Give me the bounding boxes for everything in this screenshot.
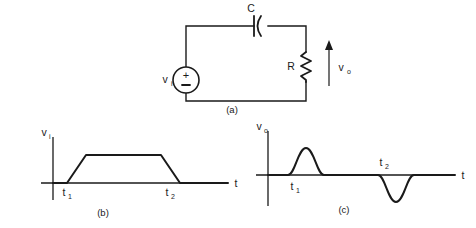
resistor — [301, 52, 311, 82]
tick-label-t1-b: t 1 — [63, 186, 72, 200]
capacitor — [254, 16, 261, 36]
tick-label-t1-c: t 1 — [291, 180, 300, 194]
tick-label-t2-c: t 2 — [380, 156, 389, 170]
output-voltage-label: v o — [338, 61, 351, 75]
resistor-label: R — [287, 60, 295, 72]
svg-text:2: 2 — [171, 193, 175, 200]
svg-text:1: 1 — [68, 193, 72, 200]
capacitor-label: C — [247, 2, 255, 14]
waveform-trace-b — [53, 155, 228, 183]
output-voltage-arrow — [325, 40, 333, 86]
svg-text:i: i — [49, 133, 51, 140]
chart-panel-c: v o t t 1 t 2 (c) — [256, 120, 465, 215]
tick-label-t2-b: t 2 — [166, 186, 175, 200]
svg-text:1: 1 — [296, 187, 300, 194]
axis-label-y-b: v i — [41, 126, 51, 140]
capacitor-plate-curved — [258, 16, 262, 36]
source-label: v i — [162, 73, 173, 87]
svg-text:v: v — [338, 61, 344, 73]
axis-label-x-c: t — [462, 169, 465, 181]
wire-top-left — [186, 26, 254, 72]
svg-text:v: v — [256, 120, 262, 132]
voltage-source: + — [173, 67, 199, 93]
figure-root: C + v i R v o — [0, 0, 476, 228]
wire-top-right — [268, 26, 306, 52]
svg-text:o: o — [347, 68, 351, 75]
panel-a-caption: (a) — [226, 104, 238, 115]
panel-b-caption: (b) — [97, 207, 109, 218]
svg-text:2: 2 — [385, 163, 389, 170]
plus-sign: + — [183, 69, 189, 81]
wire-bottom — [186, 82, 306, 101]
axis-label-y-c: v o — [256, 120, 268, 134]
circuit-panel-a: C + v i R v o — [162, 2, 351, 115]
svg-text:t: t — [291, 180, 294, 192]
panel-c-caption: (c) — [338, 204, 349, 215]
svg-text:v: v — [162, 73, 168, 85]
svg-text:t: t — [380, 156, 383, 168]
svg-text:t: t — [166, 186, 169, 198]
axis-label-x-b: t — [235, 177, 238, 189]
resistor-zigzag — [301, 52, 311, 82]
svg-text:t: t — [63, 186, 66, 198]
chart-panel-b: v i t t 1 t 2 (b) — [41, 126, 238, 218]
svg-text:v: v — [41, 126, 47, 138]
svg-text:o: o — [264, 127, 268, 134]
